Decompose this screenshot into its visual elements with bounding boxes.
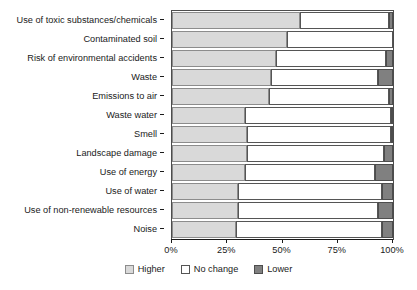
x-tick-mark: [226, 239, 227, 243]
category-label: Waste: [131, 72, 157, 82]
category-label: Use of water: [105, 186, 157, 196]
bar-segment-nochange: [300, 12, 388, 29]
category-tick-mark: [160, 57, 164, 58]
bar-segment-lower: [389, 88, 393, 105]
bar-segment-nochange: [247, 126, 391, 143]
x-tick-label: 25%: [217, 245, 235, 255]
category-label: Emissions to air: [92, 91, 157, 101]
bar-segment-higher: [172, 183, 238, 200]
category-axis: Use of toxic substances/chemicalsContami…: [0, 10, 164, 238]
bar-row: [172, 163, 393, 182]
category-label: Use of energy: [100, 167, 157, 177]
category-tick-mark: [160, 228, 164, 229]
category-label-row: Contaminated soil: [0, 29, 164, 48]
bar-segment-nochange: [238, 202, 377, 219]
category-label-row: Use of water: [0, 181, 164, 200]
bar-row: [172, 68, 393, 87]
bar-row: [172, 30, 393, 49]
bar-segment-nochange: [245, 107, 391, 124]
bar-segment-lower: [384, 145, 393, 162]
bar-segment-nochange: [245, 164, 375, 181]
bar-segment-nochange: [271, 69, 377, 86]
bar-row: [172, 106, 393, 125]
x-tick-mark: [282, 239, 283, 243]
category-tick-mark: [160, 209, 164, 210]
x-tick-label: 100%: [380, 245, 404, 255]
bar-segment-higher: [172, 221, 236, 238]
category-tick-mark: [160, 38, 164, 39]
category-label-row: Noise: [0, 219, 164, 238]
category-label-row: Waste: [0, 67, 164, 86]
x-tick-label: 0%: [164, 245, 177, 255]
bar-segment-higher: [172, 126, 247, 143]
category-tick-mark: [160, 95, 164, 96]
x-axis: 0%25%50%75%100%: [171, 239, 394, 240]
category-label-row: Waste water: [0, 105, 164, 124]
bar-segment-higher: [172, 88, 269, 105]
bar-segment-higher: [172, 202, 238, 219]
category-label-row: Risk of environmental accidents: [0, 48, 164, 67]
bar-segment-nochange: [269, 88, 388, 105]
legend-item-nochange[interactable]: No change: [181, 264, 238, 274]
legend-label: Lower: [267, 264, 292, 274]
bar-segment-nochange: [276, 50, 387, 67]
category-tick-mark: [160, 76, 164, 77]
bar-segment-nochange: [247, 145, 384, 162]
legend-label: No change: [194, 264, 238, 274]
bar-row: [172, 201, 393, 220]
bar-row: [172, 87, 393, 106]
bar-row: [172, 49, 393, 68]
x-tick-label: 75%: [328, 245, 346, 255]
category-tick-mark: [160, 152, 164, 153]
legend-swatch-icon: [125, 265, 134, 274]
bar-segment-nochange: [236, 221, 382, 238]
category-label: Landscape damage: [76, 148, 157, 158]
bar-row: [172, 11, 393, 30]
bar-segment-higher: [172, 107, 245, 124]
legend-item-lower[interactable]: Lower: [254, 264, 292, 274]
bar-segment-higher: [172, 31, 287, 48]
bar-segment-higher: [172, 145, 247, 162]
category-label-row: Landscape damage: [0, 143, 164, 162]
bar-segment-higher: [172, 50, 276, 67]
bar-segment-lower: [382, 183, 393, 200]
legend-label: Higher: [138, 264, 165, 274]
x-tick-mark: [337, 239, 338, 243]
category-label: Noise: [134, 224, 158, 234]
bar-segment-lower: [378, 202, 393, 219]
bar-segment-lower: [391, 107, 393, 124]
bar-segment-lower: [386, 50, 393, 67]
bar-segment-lower: [378, 69, 393, 86]
bar-segment-nochange: [287, 31, 393, 48]
plot-area: [171, 10, 394, 240]
category-label: Risk of environmental accidents: [27, 53, 157, 63]
category-label: Use of non-renewable resources: [24, 205, 157, 215]
bar-segment-higher: [172, 69, 271, 86]
legend-swatch-icon: [181, 265, 190, 274]
bar-segment-lower: [391, 126, 393, 143]
bar-segment-nochange: [238, 183, 382, 200]
category-label-row: Use of energy: [0, 162, 164, 181]
x-tick-mark: [392, 239, 393, 243]
category-label-row: Smell: [0, 124, 164, 143]
bar-row: [172, 220, 393, 239]
chart-legend: HigherNo changeLower: [0, 264, 417, 274]
bar-row: [172, 144, 393, 163]
bar-segment-higher: [172, 164, 245, 181]
bar-segment-lower: [389, 12, 393, 29]
category-tick-mark: [160, 190, 164, 191]
legend-swatch-icon: [254, 265, 263, 274]
bar-row: [172, 125, 393, 144]
category-label: Contaminated soil: [83, 34, 157, 44]
category-label-row: Use of toxic substances/chemicals: [0, 10, 164, 29]
bar-row: [172, 182, 393, 201]
x-tick-mark: [171, 239, 172, 243]
category-tick-mark: [160, 19, 164, 20]
stacked-bar-chart: Use of toxic substances/chemicalsContami…: [0, 0, 417, 290]
x-tick-label: 50%: [272, 245, 290, 255]
category-label: Waste water: [106, 110, 157, 120]
category-tick-mark: [160, 133, 164, 134]
legend-item-higher[interactable]: Higher: [125, 264, 165, 274]
category-tick-mark: [160, 171, 164, 172]
category-label-row: Emissions to air: [0, 86, 164, 105]
